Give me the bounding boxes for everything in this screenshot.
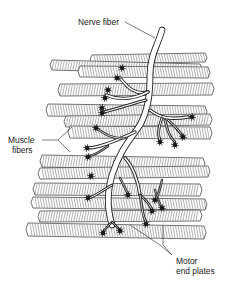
muscle-fiber [38,166,210,179]
muscle-fibers-group [26,53,214,239]
muscle-fibers-leader-line [42,127,72,152]
motor-unit-diagram: Nerve fiber Muscle fibers Motor end plat… [0,0,235,290]
muscle-fiber [58,83,214,96]
muscle-fiber [33,183,202,196]
nerve-fiber-label: Nerve fiber [78,17,119,27]
nerve-fiber-leader-line [125,22,155,38]
motor-end-plates-label-line1: Motor [176,256,198,266]
muscle-fiber [38,210,202,222]
muscle-fibers-label-line2: fibers [12,145,32,155]
motor-end-plates-label-line2: end plates [176,266,215,276]
muscle-fibers-label-line1: Muscle [8,135,35,145]
muscle-fiber [31,197,207,210]
muscle-fiber [78,66,210,78]
